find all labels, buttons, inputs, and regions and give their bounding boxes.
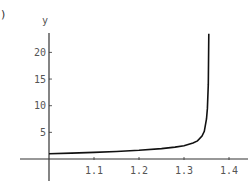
y-tick-label: 20 [34, 47, 46, 58]
x-ticks: 1.11.21.31.4 [85, 157, 238, 176]
x-tick-label: 1.3 [175, 165, 193, 176]
line-chart: y 1.11.21.31.4 5101520 [0, 0, 252, 186]
axes [20, 33, 248, 181]
y-axis-label: y [42, 15, 48, 26]
x-tick-label: 1.4 [220, 165, 238, 176]
y-tick-label: 5 [40, 127, 46, 138]
x-tick-label: 1.1 [85, 165, 103, 176]
y-tick-label: 10 [34, 100, 46, 111]
y-tick-label: 15 [34, 74, 46, 85]
x-tick-label: 1.2 [130, 165, 148, 176]
data-line [49, 34, 209, 154]
